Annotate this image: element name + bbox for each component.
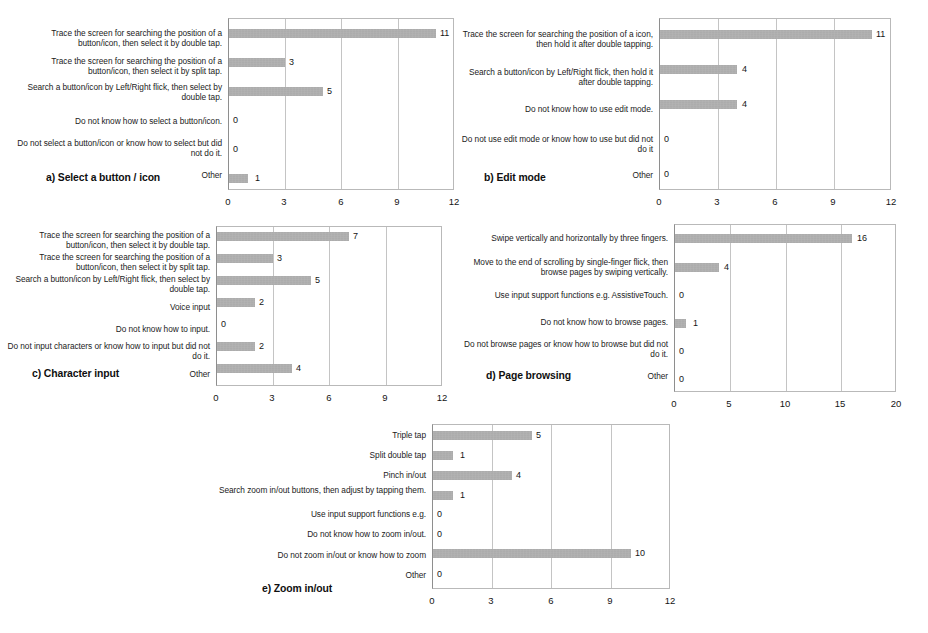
chart-e-category-2: Pinch in/out [218, 470, 426, 480]
chart-c-category-5: Do not input characters or know how to i… [5, 341, 210, 361]
chart-e-category-7: Other [218, 570, 426, 580]
chart-d-xtick-4: 20 [891, 398, 902, 409]
chart-a-category-1: Trace the screen for searching the posit… [17, 56, 222, 76]
chart-c-category-0: Trace the screen for searching the posit… [5, 230, 210, 250]
chart-a-gridline-9 [398, 19, 399, 189]
chart-b-xtick-4: 12 [886, 196, 897, 207]
chart-e-bar-1 [433, 451, 453, 460]
chart-c-xtick-3: 9 [382, 392, 387, 403]
chart-c-category-4: Do not know how to input. [5, 324, 210, 334]
chart-d-body: Swipe vertically and horizontally by thr… [456, 224, 916, 392]
chart-a-xtick-2: 6 [338, 196, 343, 207]
chart-d-category-2: Use input support functions e.g. Assisti… [462, 290, 668, 300]
chart-b-gridline-9 [834, 19, 835, 189]
chart-d-category-1: Move to the end of scrolling by single-f… [462, 257, 668, 277]
chart-e-gridline-9 [611, 425, 612, 588]
chart-d-gridline-10 [786, 225, 787, 391]
chart-c-category-2: Search a button/icon by Left/Right flick… [5, 274, 210, 294]
chart-e-value-3: 1 [460, 491, 465, 500]
chart-d-category-labels: Swipe vertically and horizontally by thr… [456, 224, 674, 379]
chart-a-value-4: 0 [233, 145, 238, 154]
chart-a-bar-1 [229, 58, 285, 67]
chart-e-value-7: 0 [437, 570, 442, 579]
chart-c-xtick-0: 0 [213, 392, 218, 403]
chart-e-category-3: Search zoom in/out buttons, then adjust … [218, 485, 426, 495]
chart-b-body: Trace the screen for searching the posit… [443, 18, 903, 190]
chart-a-value-1: 3 [289, 58, 294, 67]
chart-e-bar-2 [433, 471, 512, 480]
chart-e-category-5: Do not know how to zoom in/out. [218, 529, 426, 539]
chart-d-plot-area: 16 4 0 1 0 0 [674, 224, 896, 392]
chart-d-gridline-5 [730, 225, 731, 391]
chart-c-value-1: 3 [277, 254, 282, 263]
chart-e-category-1: Split double tap [218, 450, 426, 460]
chart-a-bar-0 [229, 29, 436, 38]
chart-b-bar-0 [660, 30, 872, 39]
chart-d-value-4: 0 [679, 347, 684, 356]
figure-page: { "figure": { "background": "#ffffff", "… [0, 0, 928, 633]
chart-c-x-axis: 0 3 6 9 12 [216, 386, 442, 408]
chart-c-category-labels: Trace the screen for searching the posit… [0, 226, 216, 376]
chart-c-character-input: Trace the screen for searching the posit… [0, 226, 450, 408]
chart-c-xtick-4: 12 [437, 392, 448, 403]
chart-d-category-3: Do not know how to browse pages. [462, 317, 668, 327]
chart-e-category-0: Triple tap [218, 430, 426, 440]
chart-c-gridline-9 [386, 227, 387, 385]
chart-b-value-1: 4 [742, 65, 747, 74]
chart-e-xtick-4: 12 [665, 595, 676, 606]
chart-b-category-0: Trace the screen for searching the posit… [453, 29, 653, 49]
chart-b-xtick-0: 0 [656, 196, 661, 207]
chart-c-title: c) Character input [32, 368, 119, 379]
chart-a-category-2: Search a button/icon by Left/Right flick… [17, 82, 222, 102]
chart-c-value-6: 4 [296, 364, 301, 373]
chart-d-category-0: Swipe vertically and horizontally by thr… [462, 233, 668, 243]
chart-b-gridline-6 [776, 19, 777, 189]
chart-a-title: a) Select a button / icon [46, 172, 160, 183]
chart-a-gridline-3 [285, 19, 286, 189]
chart-a-plot-area: 11 3 5 0 0 1 [228, 18, 454, 190]
chart-b-xtick-3: 9 [830, 196, 835, 207]
chart-d-value-3: 1 [693, 319, 698, 328]
chart-b-bar-2 [660, 100, 737, 109]
chart-e-gridline-6 [551, 425, 552, 588]
chart-e-bar-0 [433, 431, 532, 440]
chart-e-plot-area: 5 1 4 1 0 0 10 0 [432, 424, 670, 589]
chart-c-value-3: 2 [259, 298, 264, 307]
chart-e-x-axis: 0 3 6 9 12 [432, 589, 670, 611]
chart-d-value-5: 0 [679, 375, 684, 384]
chart-d-xtick-3: 15 [835, 398, 846, 409]
chart-a-value-2: 5 [327, 87, 332, 96]
chart-a-xtick-1: 3 [281, 196, 286, 207]
chart-d-bar-3 [675, 319, 686, 328]
chart-c-value-5: 2 [259, 342, 264, 351]
chart-c-bar-3 [217, 298, 255, 307]
chart-b-plot-area: 11 4 4 0 0 [659, 18, 891, 190]
chart-d-xtick-0: 0 [671, 398, 676, 409]
chart-c-gridline-6 [329, 227, 330, 385]
chart-b-x-axis: 0 3 6 9 12 [659, 190, 891, 212]
chart-e-bar-6 [433, 549, 631, 558]
chart-e-title: e) Zoom in/out [262, 583, 332, 594]
chart-a-bar-2 [229, 87, 323, 96]
chart-e-value-6: 10 [635, 549, 645, 558]
chart-a-xtick-3: 9 [394, 196, 399, 207]
chart-a-bar-5 [229, 174, 248, 183]
chart-e-value-0: 5 [536, 431, 541, 440]
chart-b-title: b) Edit mode [484, 172, 546, 183]
chart-a-category-3: Do not know how to select a button/icon. [17, 116, 222, 126]
chart-d-xtick-2: 10 [780, 398, 791, 409]
chart-c-value-4: 0 [221, 320, 226, 329]
chart-d-bar-1 [675, 263, 719, 272]
chart-d-gridline-15 [841, 225, 842, 391]
chart-a-value-5: 1 [255, 174, 260, 183]
chart-e-category-labels: Triple tap Split double tap Pinch in/out… [212, 424, 432, 586]
chart-c-bar-0 [217, 232, 349, 241]
chart-b-xtick-1: 3 [714, 196, 719, 207]
chart-b-category-3: Do not use edit mode or know how to use … [453, 134, 653, 154]
chart-d-xtick-1: 5 [726, 398, 731, 409]
chart-c-body: Trace the screen for searching the posit… [0, 226, 450, 386]
chart-c-category-3: Voice input [5, 302, 210, 312]
chart-b-category-2: Do not know how to use edit mode. [453, 104, 653, 114]
chart-d-page-browsing: Swipe vertically and horizontally by thr… [456, 224, 916, 414]
chart-e-value-4: 0 [437, 510, 442, 519]
